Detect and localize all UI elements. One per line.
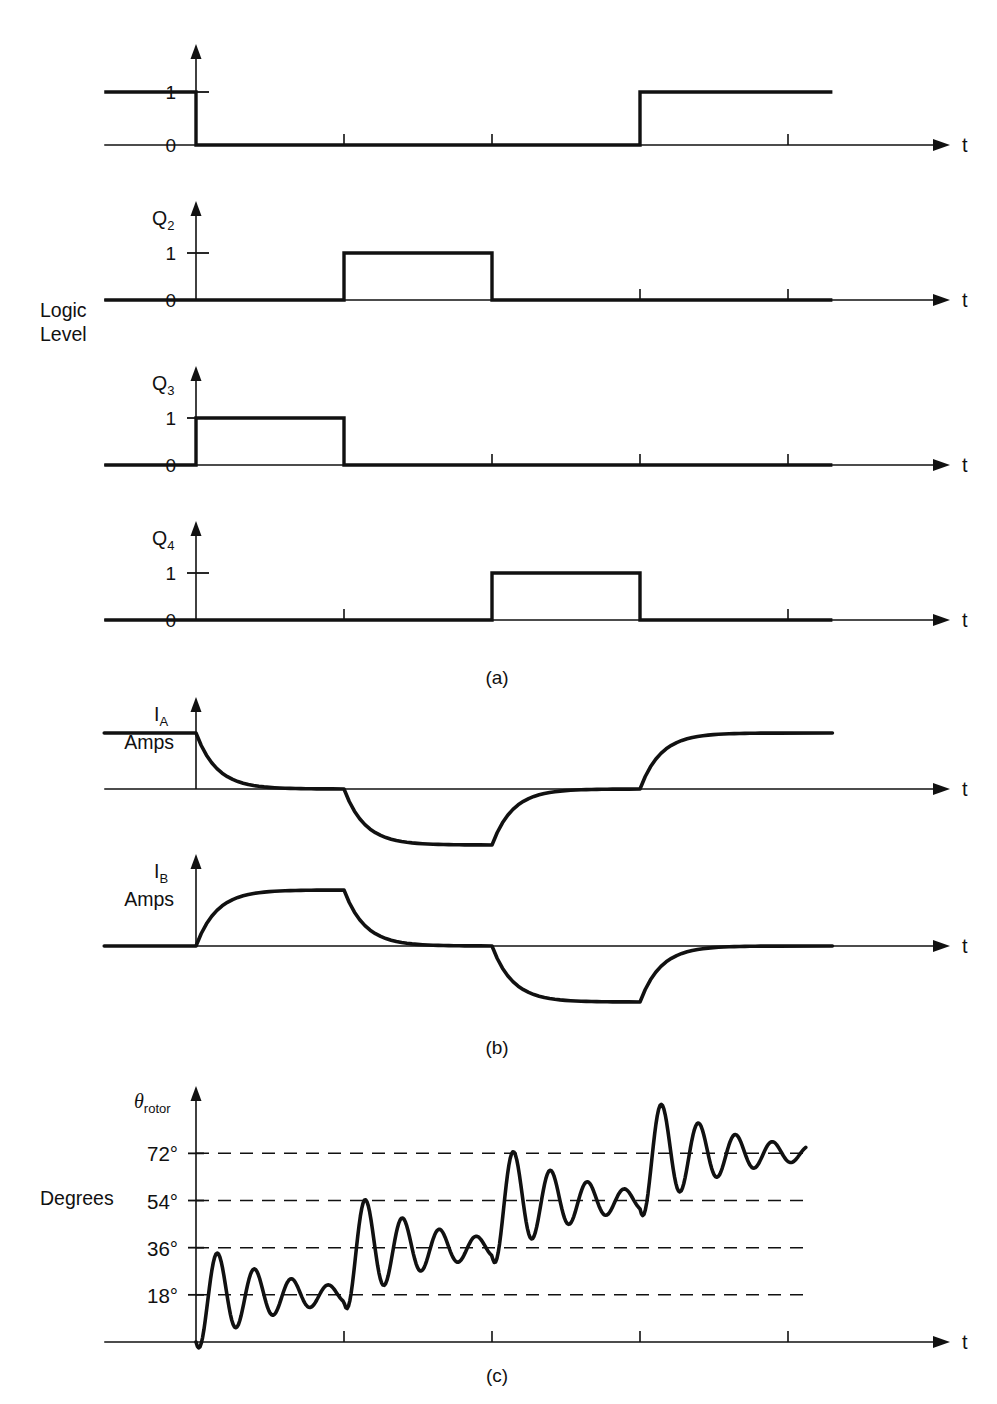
panel-a-signal-3-time-axis-label: t <box>962 609 968 631</box>
panel-b-signal-1-units-label: Amps <box>124 888 174 910</box>
panel-c-time-axis-label: t <box>962 1331 968 1353</box>
panel-b-signal-1-time-axis-label: t <box>962 935 968 957</box>
panel-c-ylabel-0: 18° <box>147 1284 178 1307</box>
panel-b-signal-0-time-axis-label: t <box>962 778 968 800</box>
panel-b-caption: (b) <box>485 1037 508 1058</box>
panel-a-signal-2-time-axis-label: t <box>962 454 968 476</box>
panel-a-signal-0-time-axis-label: t <box>962 134 968 156</box>
stepper-motor-waveform-figure: t10t10Q2t10Q3t10Q4LogicLevel(a)tIAAmpstI… <box>0 0 997 1404</box>
panel-c-ylabel-1: 36° <box>147 1237 178 1260</box>
panel-a-signal-1-level-1-label: 1 <box>165 243 176 264</box>
logic-level-label-line1: Logic <box>40 299 87 321</box>
panel-a-signal-1-time-axis-label: t <box>962 289 968 311</box>
panel-c-caption: (c) <box>486 1365 508 1386</box>
degrees-label: Degrees <box>40 1187 114 1209</box>
panel-a-caption: (a) <box>485 667 508 688</box>
figure-canvas: t10t10Q2t10Q3t10Q4LogicLevel(a)tIAAmpstI… <box>0 0 997 1404</box>
panel-a-signal-0-level-0-label: 0 <box>165 135 176 156</box>
panel-a-signal-2-level-1-label: 1 <box>165 408 176 429</box>
panel-c-ylabel-3: 72° <box>147 1142 178 1165</box>
panel-c-ylabel-2: 54° <box>147 1190 178 1213</box>
logic-level-label-line2: Level <box>40 323 87 345</box>
panel-a-signal-3-level-1-label: 1 <box>165 563 176 584</box>
